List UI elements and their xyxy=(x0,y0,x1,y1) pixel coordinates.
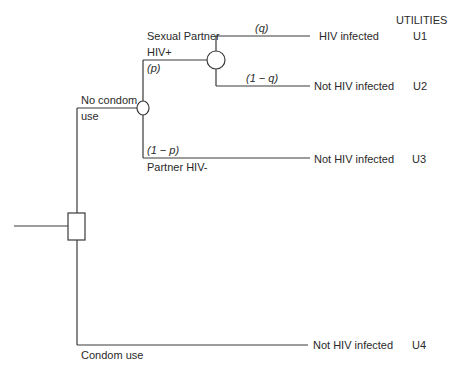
utilities-header: UTILITIES xyxy=(396,14,447,27)
outcome-1-label: HIV infected xyxy=(319,30,379,43)
partner-neg-label: Partner HIV- xyxy=(147,161,208,174)
condom-use-label: Condom use xyxy=(81,349,143,362)
outcome-1-utility: U1 xyxy=(413,30,427,43)
decision-node-square xyxy=(68,213,85,240)
partner-neg-probability: (1 − p) xyxy=(147,144,179,157)
decision-tree-lines xyxy=(0,0,452,370)
chance-node-infection xyxy=(207,51,225,69)
partner-pos-probability: (p) xyxy=(147,62,160,75)
partner-pos-label-line1: Sexual Partner xyxy=(147,30,220,43)
infected-probability: (q) xyxy=(255,22,268,35)
outcome-4-label: Not HIV infected xyxy=(313,339,393,352)
outcome-2-label: Not HIV infected xyxy=(314,80,394,93)
no-condom-label-line1: No condom xyxy=(81,94,137,107)
outcome-2-utility: U2 xyxy=(413,80,427,93)
partner-pos-label-line2: HIV+ xyxy=(147,46,172,59)
outcome-3-label: Not HIV infected xyxy=(314,153,394,166)
no-condom-label-line2: use xyxy=(81,110,99,123)
not-infected-probability: (1 − q) xyxy=(246,72,278,85)
chance-node-partner-status xyxy=(137,101,149,115)
outcome-4-utility: U4 xyxy=(412,339,426,352)
outcome-3-utility: U3 xyxy=(412,153,426,166)
